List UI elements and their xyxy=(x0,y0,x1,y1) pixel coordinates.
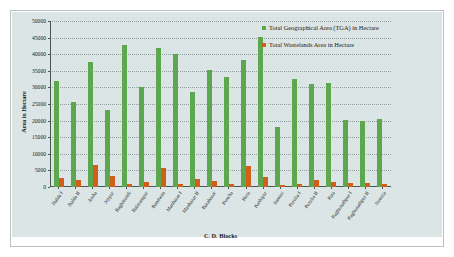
x-tick-label: Jhalda II xyxy=(65,190,80,208)
chart-legend: Total Geographical Area (TGA) in Hectare… xyxy=(262,24,392,58)
x-label-slot: Barabazar xyxy=(203,190,220,234)
x-label-slot: Balarampur xyxy=(135,190,152,234)
x-label-slot: Purulia II xyxy=(306,190,323,234)
bar-tga xyxy=(309,84,314,187)
x-tick-slot xyxy=(84,187,101,189)
legend-item-tga: Total Geographical Area (TGA) in Hectare xyxy=(262,24,392,32)
legend-label-wastelands: Total Wastelands Area in Hectare xyxy=(269,41,354,49)
x-tick-label: Kashipur xyxy=(252,190,268,209)
x-tick-slot xyxy=(323,187,340,189)
x-label-slot: Joypur xyxy=(101,190,118,234)
x-tick-label: Hura xyxy=(240,190,251,202)
bar-tga xyxy=(139,87,144,187)
x-tick-label: Purulia I xyxy=(287,190,302,208)
bar-group xyxy=(169,21,186,187)
y-tick-label: 25000 xyxy=(32,101,46,107)
y-tick-label: 5000 xyxy=(35,167,46,173)
x-tick-slot xyxy=(272,187,289,189)
x-tick-label: Para xyxy=(326,190,336,201)
x-tick-label: Joypur xyxy=(102,190,115,205)
x-tick-mark xyxy=(246,187,247,189)
bar-tga xyxy=(258,37,263,187)
x-label-slot: Manbazar II xyxy=(186,190,203,234)
x-label-slot: Puncha xyxy=(220,190,237,234)
y-tick-label: 35000 xyxy=(32,68,46,74)
x-label-slot: Arsha xyxy=(84,190,101,234)
bar-tga xyxy=(343,120,348,187)
x-tick-label: Bandwan xyxy=(150,190,166,209)
bar-tga xyxy=(360,121,365,187)
bar-group xyxy=(101,21,118,187)
bar-group xyxy=(152,21,169,187)
bar-tga xyxy=(71,102,76,187)
x-tick-label: Purulia II xyxy=(303,190,319,209)
legend-label-tga: Total Geographical Area (TGA) in Hectare xyxy=(269,24,379,32)
bar-group xyxy=(118,21,135,187)
x-tick-mark xyxy=(331,187,332,189)
x-label-slot: Neturia xyxy=(374,190,391,234)
legend-swatch-tga-icon xyxy=(262,26,266,30)
bar-wastelands xyxy=(110,176,115,187)
chart-figure: Area in Hectare 050001000015000200002500… xyxy=(0,0,454,257)
x-label-slot: Purulia I xyxy=(289,190,306,234)
bar-wastelands xyxy=(246,166,251,187)
x-label-slot: Raghunathpur II xyxy=(357,190,374,234)
x-tick-slot xyxy=(135,187,152,189)
x-tick-mark xyxy=(228,187,229,189)
x-tick-mark xyxy=(314,187,315,189)
x-label-slot: Jhalda I xyxy=(50,190,67,234)
x-tick-slot xyxy=(306,187,323,189)
y-tick-label: 40000 xyxy=(32,51,46,57)
bar-tga xyxy=(377,119,382,187)
bar-tga xyxy=(275,127,280,187)
x-tick-label: Puncha xyxy=(220,190,234,206)
x-tick-slot xyxy=(186,187,203,189)
bar-tga xyxy=(190,92,195,187)
bar-wastelands xyxy=(314,180,319,187)
bar-wastelands xyxy=(263,177,268,187)
bar-group xyxy=(220,21,237,187)
x-label-slot: Kashipur xyxy=(255,190,272,234)
bar-tga xyxy=(156,48,161,187)
y-tick-label: 20000 xyxy=(32,118,46,124)
bar-tga xyxy=(173,54,178,187)
x-tick-slot xyxy=(374,187,391,189)
x-label-slot: Hura xyxy=(238,190,255,234)
bar-group xyxy=(84,21,101,187)
x-tick-label: Jhalda I xyxy=(49,190,63,207)
bar-wastelands xyxy=(76,180,81,187)
x-tick-slot xyxy=(220,187,237,189)
x-tick-slot xyxy=(238,187,255,189)
bar-tga xyxy=(292,79,297,187)
x-label-slot: Jhalda II xyxy=(67,190,84,234)
bar-wastelands xyxy=(161,168,166,187)
bar-group xyxy=(203,21,220,187)
y-tick-label: 45000 xyxy=(32,35,46,41)
bar-tga xyxy=(224,77,229,187)
y-tick-label: 30000 xyxy=(32,84,46,90)
x-tick-label: Barabazar xyxy=(200,190,217,210)
y-tick-label: 10000 xyxy=(32,151,46,157)
bar-wastelands xyxy=(195,179,200,187)
x-axis-ticks xyxy=(50,187,391,189)
x-label-slot: Bandwan xyxy=(152,190,169,234)
bar-tga xyxy=(122,45,127,187)
y-tick-label: 50000 xyxy=(32,18,46,24)
bar-group xyxy=(67,21,84,187)
x-tick-label: Neturia xyxy=(374,190,388,206)
x-axis-tick-labels: Jhalda IJhalda IIArshaJoypurBaghmundiBal… xyxy=(50,190,391,234)
x-tick-slot xyxy=(289,187,306,189)
bar-wastelands xyxy=(93,165,98,187)
legend-item-wastelands: Total Wastelands Area in Hectare xyxy=(262,41,392,49)
bar-group xyxy=(238,21,255,187)
x-label-slot: Santuri xyxy=(272,190,289,234)
x-tick-slot xyxy=(169,187,186,189)
x-tick-label: Santuri xyxy=(272,190,285,205)
x-tick-label: Arsha xyxy=(86,190,98,203)
bar-group xyxy=(135,21,152,187)
bar-tga xyxy=(326,83,331,187)
bar-group xyxy=(186,21,203,187)
bar-group xyxy=(50,21,67,187)
x-tick-slot xyxy=(340,187,357,189)
bar-tga xyxy=(207,70,212,187)
